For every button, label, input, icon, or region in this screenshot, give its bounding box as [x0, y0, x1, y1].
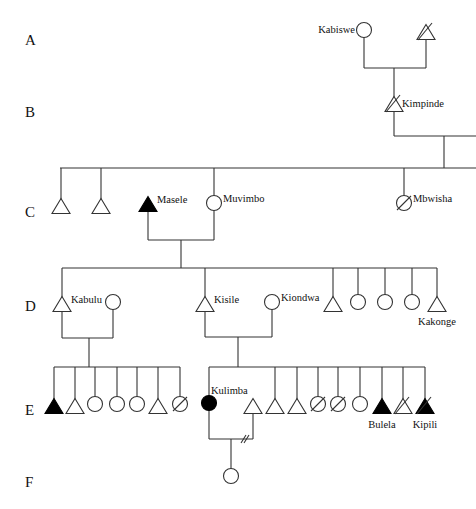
person-e10	[266, 399, 284, 414]
name-labels: KabisweKimpindeMaseleMuvimboMbwishaKabul…	[71, 24, 456, 430]
circle-icon	[405, 295, 420, 310]
filled-triangle-icon	[373, 399, 391, 414]
triangle-icon	[428, 297, 446, 312]
name-label-mbwisha: Mbwisha	[413, 193, 452, 204]
person-kipili	[416, 397, 434, 414]
circle-icon	[224, 469, 239, 484]
person-kulimba-husband	[244, 399, 262, 414]
triangle-icon	[149, 399, 167, 414]
triangle-icon	[52, 199, 70, 214]
name-label-kulimba: Kulimba	[211, 385, 248, 396]
filled-triangle-icon	[45, 399, 63, 414]
circle-icon	[351, 295, 366, 310]
triangle-icon	[66, 399, 84, 414]
person-d7	[378, 295, 393, 310]
generation-label-b: B	[25, 104, 35, 120]
triangle-icon	[288, 399, 306, 414]
generation-labels: ABCDEF	[25, 32, 36, 490]
name-label-kipili: Kipili	[413, 419, 438, 430]
person-e11	[288, 399, 306, 414]
person-e12	[311, 397, 326, 412]
person-a-male	[417, 23, 435, 40]
person-e16	[394, 397, 412, 414]
person-e14	[353, 397, 368, 412]
person-kabiswe	[357, 23, 372, 38]
triangle-icon	[324, 297, 342, 312]
circle-icon	[353, 397, 368, 412]
filled-triangle-icon	[139, 197, 157, 212]
triangle-icon	[266, 399, 284, 414]
circle-icon	[106, 295, 121, 310]
person-e4	[110, 397, 125, 412]
person-kakonge	[428, 297, 446, 312]
genealogy-canvas: ABCDEF KabisweKimpindeMaseleMuvimboMbwis…	[0, 0, 476, 509]
person-masele	[139, 197, 157, 212]
person-e1	[45, 399, 63, 414]
name-label-kabulu: Kabulu	[71, 294, 103, 305]
person-muvimbo	[207, 196, 222, 211]
generation-label-a: A	[25, 32, 36, 48]
generation-label-e: E	[25, 402, 34, 418]
circle-icon	[130, 397, 145, 412]
triangle-icon	[244, 399, 262, 414]
person-e13	[331, 397, 346, 412]
circle-icon	[378, 295, 393, 310]
triangle-icon	[92, 199, 110, 214]
name-label-kiondwa: Kiondwa	[281, 292, 320, 303]
name-label-muvimbo: Muvimbo	[223, 193, 264, 204]
person-c2	[92, 199, 110, 214]
generation-label-f: F	[25, 474, 33, 490]
name-label-kakonge: Kakonge	[418, 316, 456, 327]
kinship-diagram: ABCDEF KabisweKimpindeMaseleMuvimboMbwis…	[0, 0, 476, 509]
name-label-masele: Masele	[157, 194, 188, 205]
person-kulimba	[202, 396, 217, 411]
circle-icon	[88, 397, 103, 412]
filled-circle-icon	[202, 396, 217, 411]
person-d6	[351, 295, 366, 310]
person-bulela	[373, 399, 391, 414]
name-label-kimpinde: Kimpinde	[402, 98, 444, 109]
individuals	[45, 23, 446, 484]
triangle-icon	[53, 297, 71, 312]
person-e6	[149, 399, 167, 414]
person-kiondwa	[265, 295, 280, 310]
person-e5	[130, 397, 145, 412]
person-d8	[405, 295, 420, 310]
name-label-bulela: Bulela	[368, 419, 396, 430]
person-e3	[88, 397, 103, 412]
person-f1	[224, 469, 239, 484]
name-label-kisile: Kisile	[214, 294, 239, 305]
name-label-kabiswe: Kabiswe	[318, 24, 355, 35]
person-kisile	[196, 297, 214, 312]
person-d5	[324, 297, 342, 312]
triangle-icon	[196, 297, 214, 312]
circle-icon	[357, 23, 372, 38]
person-kabulu	[53, 297, 71, 312]
person-e2	[66, 399, 84, 414]
circle-icon	[265, 295, 280, 310]
circle-icon	[207, 196, 222, 211]
person-kabulu-wife	[106, 295, 121, 310]
person-c1	[52, 199, 70, 214]
person-mbwisha	[397, 196, 412, 211]
generation-label-c: C	[25, 204, 35, 220]
generation-label-d: D	[25, 298, 36, 314]
person-kimpinde	[385, 95, 403, 112]
person-e7	[173, 397, 188, 412]
circle-icon	[110, 397, 125, 412]
